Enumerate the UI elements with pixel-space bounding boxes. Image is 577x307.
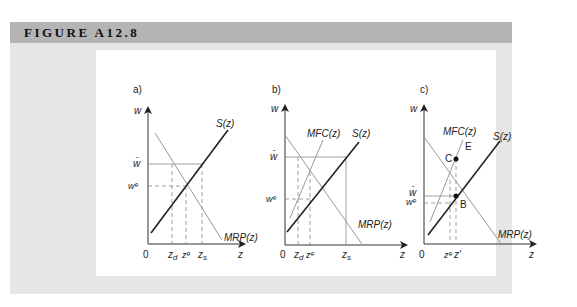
panel-b: b) w z 0 w̄ wᵉ MFC(z) S(z) MRP(z) zd zᵉ … bbox=[266, 84, 405, 262]
svg-text:zd: zd bbox=[167, 249, 178, 262]
svg-text:zs: zs bbox=[197, 249, 207, 262]
panel-a: a) w z 0 w̄ wᵉ S(z) MRP(z) zd zᵉ zs bbox=[128, 84, 258, 262]
svg-text:zd: zd bbox=[293, 249, 304, 262]
panel-b-label: b) bbox=[272, 84, 281, 95]
mrp-curve bbox=[155, 133, 222, 240]
svg-text:E: E bbox=[465, 141, 472, 152]
svg-text:z: z bbox=[399, 249, 405, 260]
svg-text:zᵉ: zᵉ bbox=[305, 250, 315, 260]
svg-text:zs: zs bbox=[341, 249, 351, 262]
svg-text:w: w bbox=[271, 103, 279, 114]
svg-text:wᵉ: wᵉ bbox=[266, 194, 276, 204]
panel-c: c) w z 0 w̄ wᵉ MFC(z) E S(z) MRP(z) C B … bbox=[406, 84, 534, 260]
y-axis-label: w bbox=[134, 105, 142, 116]
svg-text:C: C bbox=[445, 153, 452, 164]
svg-text:wᵉ: wᵉ bbox=[406, 197, 416, 207]
svg-text:w̄: w̄ bbox=[270, 150, 278, 162]
svg-text:0: 0 bbox=[419, 249, 425, 260]
figure-chart: a) w z 0 w̄ wᵉ S(z) MRP(z) zd zᵉ zs b) w… bbox=[0, 0, 577, 307]
x-axis-label: z bbox=[237, 249, 243, 260]
wbar-label: w̄ bbox=[133, 157, 141, 169]
point-c bbox=[454, 157, 459, 162]
svg-text:zᵉ: zᵉ bbox=[443, 250, 453, 260]
svg-text:0: 0 bbox=[280, 249, 286, 260]
svg-text:w: w bbox=[410, 103, 418, 114]
svg-text:MFC(z): MFC(z) bbox=[443, 126, 476, 137]
panel-a-label: a) bbox=[133, 84, 142, 95]
panel-c-label: c) bbox=[420, 84, 428, 95]
svg-text:z′: z′ bbox=[453, 249, 462, 260]
mrp-label: MRP(z) bbox=[224, 232, 258, 243]
svg-text:S(z): S(z) bbox=[493, 131, 511, 142]
svg-text:zᵉ: zᵉ bbox=[181, 250, 191, 260]
svg-text:S(z): S(z) bbox=[352, 128, 370, 139]
point-b bbox=[454, 194, 459, 199]
svg-text:MRP(z): MRP(z) bbox=[498, 229, 532, 240]
svg-text:z: z bbox=[528, 249, 534, 260]
supply-label: S(z) bbox=[216, 118, 234, 129]
svg-text:B: B bbox=[460, 199, 467, 210]
svg-text:MFC(z): MFC(z) bbox=[307, 128, 340, 139]
svg-text:MRP(z): MRP(z) bbox=[358, 219, 392, 230]
origin-label: 0 bbox=[143, 249, 149, 260]
we-label: wᵉ bbox=[128, 181, 138, 191]
